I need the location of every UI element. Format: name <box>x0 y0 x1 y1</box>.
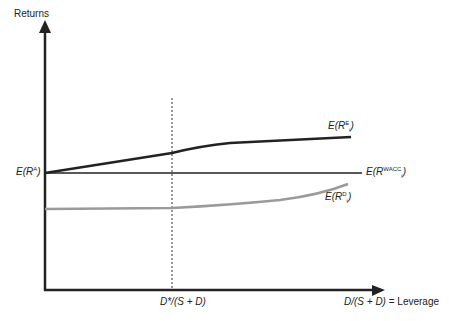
equity-label: E(REi) <box>328 120 354 133</box>
debt-label: E(RDi) <box>325 191 351 204</box>
y-axis-label: Returns <box>14 8 49 19</box>
debt-curve <box>45 184 348 209</box>
y-axis-arrow-icon <box>39 20 51 33</box>
equity-curve <box>45 137 351 173</box>
x-axis-arrow-icon <box>372 285 385 296</box>
x-axis-label: D/(S + D) = Leverage <box>344 296 439 307</box>
intercept-label: E(RA) <box>16 166 41 177</box>
optimal-leverage-label: D*/(S + D) <box>160 296 206 307</box>
chart-canvas <box>0 0 449 321</box>
wacc-label: E(RWACCi) <box>366 166 406 179</box>
